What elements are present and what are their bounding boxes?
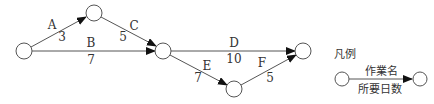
node-5 [295,43,311,59]
edge-F-activity: F [258,56,266,70]
edge-B-activity: B [87,36,96,50]
edge-C-activity: C [129,19,138,33]
node-2 [86,5,102,21]
edge-D-activity: D [229,36,239,50]
node-3 [155,43,171,59]
node-1 [16,43,32,59]
edge-E-activity: E [203,59,212,73]
legend: 凡例 作業名 所要日数 [334,47,427,96]
legend-title: 凡例 [334,47,356,61]
edge-F-days: 5 [266,71,274,85]
edge-E: E 7 [170,55,227,85]
legend-end-node [413,72,427,86]
edge-A-days: 3 [58,30,66,44]
node-4 [226,81,242,97]
edge-C: C 5 [101,17,156,46]
edge-B-days: 7 [87,53,95,67]
edge-F: F 5 [241,55,296,85]
legend-days-label: 所要日数 [358,83,402,96]
legend-start-node [335,72,349,86]
edge-A-activity: A [47,18,57,32]
legend-activity-label: 作業名 [365,64,398,78]
edge-E-days: 7 [194,71,202,85]
edge-B: B 7 [32,36,155,67]
edge-C-days: 5 [119,30,127,44]
edge-A: A 3 [31,17,86,47]
arrow-diagram: A 3 B 7 C 5 D 10 E 7 F 5 凡例 作業名 所要日数 [0,0,434,104]
edge-D: D 10 [171,36,295,66]
edge-D-days: 10 [226,52,241,66]
